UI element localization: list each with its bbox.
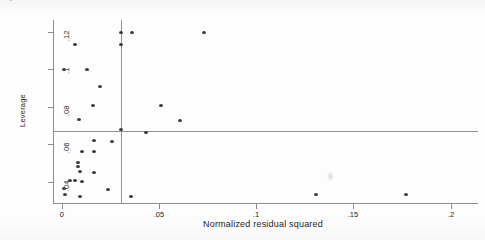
x-axis-tick-label: .05 bbox=[145, 210, 173, 219]
scatter-point bbox=[91, 104, 95, 107]
x-axis-tick-label: .2 bbox=[437, 210, 465, 219]
scatter-point bbox=[98, 85, 102, 88]
horizontal-reference-line bbox=[53, 131, 478, 132]
x-axis-tick bbox=[353, 204, 354, 209]
scatter-point bbox=[144, 131, 148, 134]
scatter-point bbox=[178, 119, 182, 122]
x-axis-line bbox=[53, 203, 478, 204]
y-axis-tick-label: .12 bbox=[62, 31, 71, 53]
scatter-point bbox=[85, 68, 89, 71]
y-axis-tick bbox=[48, 144, 53, 145]
y-axis-tick bbox=[48, 32, 53, 33]
scatter-point bbox=[73, 179, 77, 182]
scatter-point bbox=[106, 188, 110, 191]
x-axis-tick bbox=[451, 204, 452, 209]
scatter-point bbox=[68, 179, 72, 182]
x-axis-tick-label: .1 bbox=[242, 210, 270, 219]
x-axis-tick bbox=[256, 204, 257, 209]
scatter-point bbox=[92, 171, 96, 174]
scan-smudge-artifact bbox=[327, 171, 334, 182]
vertical-reference-line bbox=[121, 20, 122, 203]
scatter-point bbox=[76, 165, 80, 168]
x-axis-tick bbox=[159, 204, 160, 209]
scatter-point bbox=[78, 170, 82, 173]
leverage-vs-residual-scatter-figure: e .04.06.08.1.12 0.05.1.15.2 Leverage No… bbox=[0, 0, 485, 240]
scatter-point bbox=[73, 43, 77, 46]
scatter-point bbox=[92, 150, 96, 153]
scatter-point bbox=[119, 31, 123, 34]
scatter-point bbox=[76, 161, 80, 164]
scatter-point bbox=[80, 150, 84, 153]
scatter-point bbox=[119, 43, 123, 46]
x-axis-title: Normalized residual squared bbox=[153, 219, 373, 229]
scatter-point bbox=[77, 118, 81, 121]
scatter-point bbox=[119, 128, 123, 131]
x-axis-tick bbox=[62, 204, 63, 209]
scatter-point bbox=[314, 193, 318, 196]
y-axis-tick bbox=[48, 69, 53, 70]
scatter-point bbox=[159, 104, 163, 107]
scan-artifact-glyph: e bbox=[6, 0, 15, 1]
y-axis-tick-label: .06 bbox=[62, 143, 71, 165]
scatter-point bbox=[92, 139, 96, 142]
scatter-point bbox=[63, 193, 67, 196]
y-axis-tick bbox=[48, 182, 53, 183]
scatter-point bbox=[110, 140, 114, 143]
y-axis-line bbox=[53, 20, 54, 203]
x-axis-tick-label: 0 bbox=[48, 210, 76, 219]
y-axis-tick-label: .04 bbox=[62, 181, 71, 203]
scatter-point bbox=[130, 31, 134, 34]
scatter-point bbox=[202, 31, 206, 34]
y-axis-tick bbox=[48, 107, 53, 108]
scatter-point bbox=[78, 195, 82, 198]
scan-grain-overlay bbox=[0, 0, 485, 240]
x-axis-tick-label: .15 bbox=[339, 210, 367, 219]
y-axis-tick-label: .08 bbox=[62, 106, 71, 128]
scatter-point bbox=[129, 195, 133, 198]
y-axis-title: Leverage bbox=[18, 81, 27, 141]
scatter-point bbox=[80, 180, 84, 183]
scatter-point bbox=[404, 193, 408, 196]
